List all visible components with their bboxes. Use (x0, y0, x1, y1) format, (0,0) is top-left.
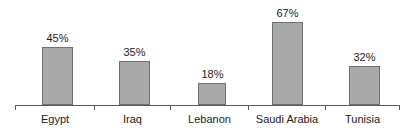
axis-tick-3 (248, 105, 249, 110)
category-label-tunisia: Tunisia (327, 112, 398, 126)
category-label-lebanon: Lebanon (172, 112, 247, 126)
axis-tick-4 (325, 105, 326, 110)
bar-chart: 45% 35% 18% 67% 32% Egypt Iraq Lebanon S… (0, 0, 415, 131)
plot-area: 45% 35% 18% 67% 32% Egypt Iraq Lebanon S… (0, 0, 415, 131)
value-label-egypt: 45% (27, 32, 88, 45)
bar-iraq (119, 61, 150, 105)
category-label-iraq: Iraq (96, 112, 169, 126)
axis-tick-0 (15, 105, 16, 110)
bar-tunisia (349, 66, 380, 105)
value-label-lebanon: 18% (182, 68, 243, 81)
axis-tick-5 (399, 105, 400, 110)
value-label-tunisia: 32% (334, 51, 395, 64)
value-label-iraq: 35% (104, 46, 165, 59)
x-axis-line (15, 105, 400, 106)
bar-egypt (42, 47, 73, 105)
axis-tick-2 (170, 105, 171, 110)
category-label-saudi-arabia: Saudi Arabia (250, 112, 324, 126)
bar-lebanon (198, 83, 226, 105)
value-label-saudi-arabia: 67% (257, 7, 318, 20)
category-label-egypt: Egypt (17, 112, 93, 126)
bar-saudi-arabia (272, 22, 303, 105)
axis-tick-1 (94, 105, 95, 110)
